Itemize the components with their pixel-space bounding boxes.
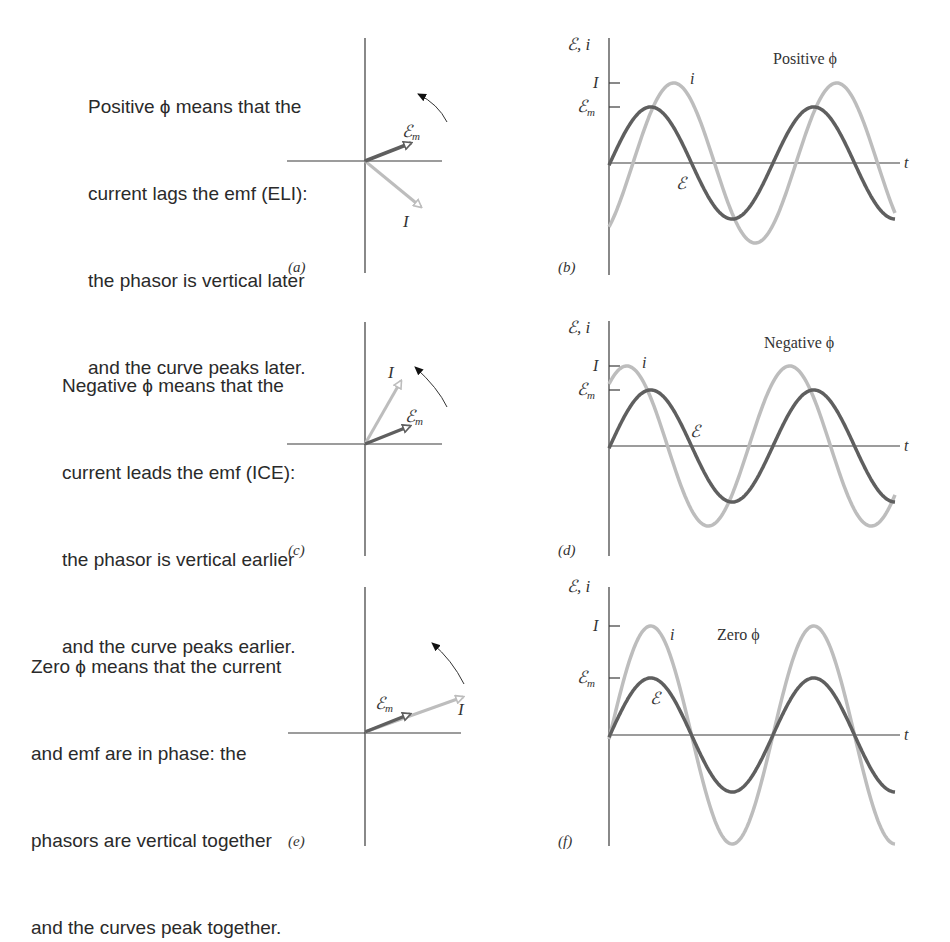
rotation-arrow-icon <box>432 643 464 684</box>
tick-label-em: ℰm <box>577 380 595 401</box>
panel-label-b: (b) <box>558 259 576 276</box>
t-axis-label: t <box>904 437 909 454</box>
panel-label-e: (e) <box>288 833 305 850</box>
phasor-em-label: ℰm <box>375 694 393 714</box>
phasor-i-label: I <box>387 363 395 382</box>
rotation-arrow-icon <box>415 367 447 407</box>
tick-label-i: I <box>592 357 599 374</box>
panel-label-f: (f) <box>558 833 572 850</box>
tick-label-em: ℰm <box>577 668 595 689</box>
curve-label-i: i <box>642 354 646 371</box>
t-axis-label: t <box>904 154 909 171</box>
waveform-chart-f: ℰ, i t I ℰm Zero ϕ i ℰ (f) <box>558 577 909 850</box>
y-axis-label: ℰ, i <box>567 318 591 337</box>
y-axis-label: ℰ, i <box>567 577 591 596</box>
description-line: and the curves peak together. <box>31 913 281 942</box>
curve-label-i: i <box>690 70 694 87</box>
panel-label-c: (c) <box>288 542 305 559</box>
phasor-i-label: I <box>457 700 465 719</box>
tick-label-em: ℰm <box>577 97 595 118</box>
panel-label-d: (d) <box>558 542 576 559</box>
curve-label-emf: ℰ <box>676 174 688 193</box>
phasor-em-label: ℰm <box>402 122 420 142</box>
curve-label-i: i <box>670 626 674 643</box>
waveform-chart-d: ℰ, i t I ℰm Negative ϕ i ℰ (d) <box>558 318 909 559</box>
phasor-diagram-c: ℰm I (c) <box>287 322 447 559</box>
t-axis-label: t <box>904 726 909 743</box>
tick-label-i: I <box>592 617 599 634</box>
emf-phasor-arrow <box>365 714 410 732</box>
panel-label-a: (a) <box>288 259 306 276</box>
y-axis-label: ℰ, i <box>567 35 591 54</box>
phasor-i-label: I <box>402 212 410 231</box>
curve-label-emf: ℰ <box>690 422 702 441</box>
rotation-arrow-icon <box>418 94 447 122</box>
current-phasor-arrow <box>365 381 401 444</box>
curve-label-emf: ℰ <box>650 689 662 708</box>
chart-title: Positive ϕ <box>773 50 837 68</box>
chart-title: Negative ϕ <box>764 334 834 352</box>
phasor-diagram-a: ℰm I (a) <box>287 38 447 276</box>
phasor-diagram-e: ℰm I (e) <box>288 587 465 850</box>
current-phasor-arrow <box>365 161 421 207</box>
tick-label-i: I <box>592 74 599 91</box>
emf-phasor-arrow <box>365 143 411 161</box>
chart-title: Zero ϕ <box>717 626 760 644</box>
phasor-em-label: ℰm <box>405 407 423 427</box>
waveform-chart-b: ℰ, i t I ℰm Positive ϕ i ℰ (b) <box>558 35 909 276</box>
